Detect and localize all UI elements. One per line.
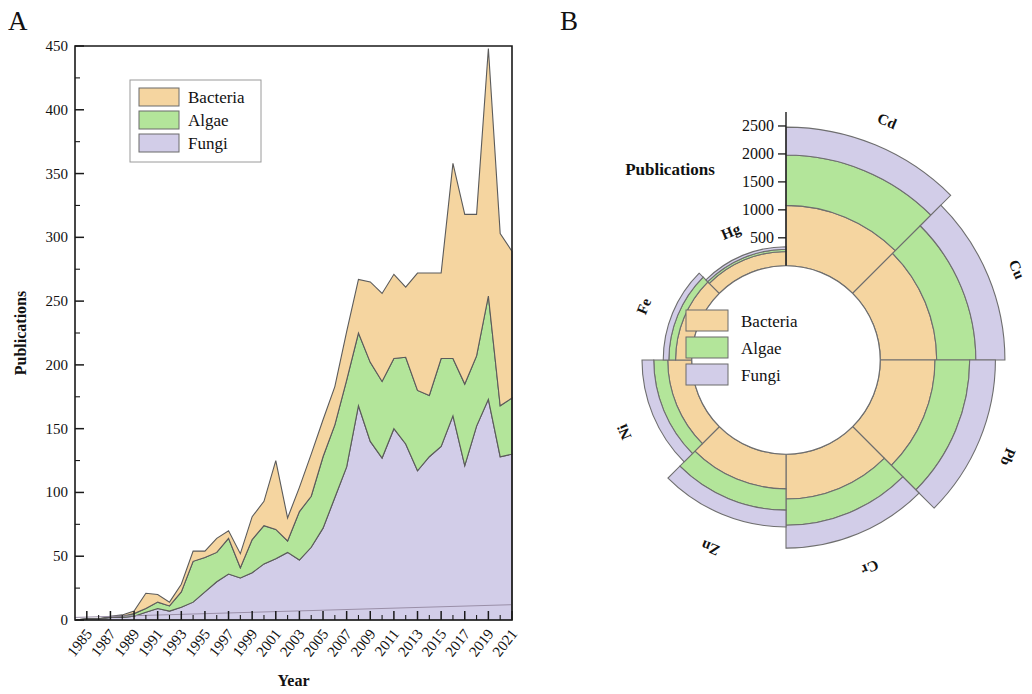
legend-swatch-algae [139, 111, 179, 129]
figure-root: A 05010015020025030035040045019851987198… [0, 0, 1032, 694]
radial-category-hg: Hg [719, 220, 743, 242]
radial-axis: 5001000150020002500 [742, 112, 786, 266]
x-tick-label: 2017 [442, 626, 473, 660]
y-tick-label: 300 [46, 229, 69, 245]
y-tick-label: 450 [46, 38, 69, 54]
radial-tick-label: 2000 [742, 145, 774, 162]
y-tick-label: 350 [46, 166, 69, 182]
y-tick-label: 400 [46, 102, 69, 118]
panel-b-radial-chart: B 5001000150020002500 CdCuPbCrZnNiFeHg P… [540, 0, 1032, 694]
x-tick-label: 1995 [182, 626, 213, 659]
y-tick-label: 100 [46, 484, 69, 500]
radial-category-zn: Zn [698, 537, 722, 559]
radial-category-ni: Ni [614, 422, 635, 442]
radial-tick-label: 500 [750, 229, 774, 246]
x-tick-label: 2007 [324, 626, 355, 660]
x-tick-label: 1985 [64, 626, 95, 659]
legend-label-bacteria: Bacteria [741, 312, 798, 331]
radial-category-cu: Cu [1006, 257, 1028, 281]
legend-swatch-bacteria [686, 310, 728, 331]
panel-a-area-chart: A 05010015020025030035040045019851987198… [0, 0, 540, 694]
legend-swatch-bacteria [139, 88, 179, 106]
legend-swatch-algae [686, 337, 728, 358]
legend-label-fungi: Fungi [741, 366, 781, 385]
legend-swatch-fungi [139, 134, 179, 152]
radial-hole [692, 266, 880, 454]
x-tick-label: 2019 [466, 626, 497, 659]
x-tick-label: 2001 [253, 626, 284, 659]
x-tick-label: 2009 [348, 626, 379, 659]
y-tick-label: 150 [46, 421, 69, 437]
x-tick-label: 1987 [88, 626, 119, 660]
radial-category-fe: Fe [634, 295, 655, 316]
y-tick-label: 50 [53, 548, 68, 564]
x-tick-label: 1991 [135, 626, 166, 659]
x-axis-title: Year [278, 672, 310, 689]
panel-a-legend: BacteriaAlgaeFungi [130, 80, 261, 162]
x-tick-label: 1997 [206, 626, 237, 660]
x-tick-label: 2011 [372, 626, 403, 659]
radial-tick-label: 1000 [742, 201, 774, 218]
x-tick-label: 2015 [418, 626, 449, 659]
radial-inner-hole [692, 266, 880, 454]
y-tick-label: 0 [61, 612, 69, 628]
legend-swatch-fungi [686, 364, 728, 385]
radial-tick-label: 1500 [742, 173, 774, 190]
radial-unit-label: Publications [625, 160, 715, 179]
y-tick-label: 250 [46, 293, 69, 309]
legend-label-bacteria: Bacteria [188, 88, 245, 107]
x-tick-label: 2021 [489, 626, 520, 659]
x-tick-label: 1989 [111, 626, 142, 659]
legend-label-algae: Algae [741, 339, 782, 358]
y-tick-label: 200 [46, 357, 69, 373]
panel-a-svg: 0501001502002503003504004501985198719891… [0, 0, 540, 694]
x-tick-label: 1993 [159, 626, 190, 659]
x-tick-label: 2005 [300, 626, 331, 659]
x-tick-label: 1999 [229, 626, 260, 659]
legend-label-algae: Algae [188, 111, 229, 130]
radial-category-cd: Cd [875, 110, 899, 132]
radial-category-pb: Pb [997, 446, 1018, 468]
panel-a-label: A [8, 8, 28, 35]
x-tick-label: 2003 [277, 626, 308, 659]
legend-label-fungi: Fungi [188, 134, 228, 153]
panel-b-label: B [560, 8, 578, 35]
x-tick-label: 2013 [395, 626, 426, 659]
radial-category-cr: Cr [858, 557, 881, 579]
y-axis-title: Publications [12, 291, 29, 375]
radial-tick-label: 2500 [742, 117, 774, 134]
panel-b-svg: 5001000150020002500 CdCuPbCrZnNiFeHg Pub… [540, 0, 1032, 694]
